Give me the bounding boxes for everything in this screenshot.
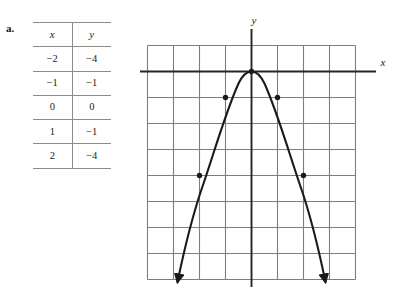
table-cell-y: −4 bbox=[72, 47, 111, 71]
table-cell-y: −4 bbox=[72, 144, 111, 168]
table-cell-x: −1 bbox=[33, 71, 72, 95]
graph-svg: x y bbox=[130, 8, 408, 294]
part-label: a. bbox=[6, 22, 14, 34]
table-row: 1 −1 bbox=[33, 120, 111, 144]
table-cell-y: −1 bbox=[72, 120, 111, 144]
table-row: 0 0 bbox=[33, 95, 111, 119]
table-header-row: x y bbox=[33, 23, 111, 47]
table-row: −2 −4 bbox=[33, 47, 111, 71]
coordinate-graph: x y bbox=[130, 8, 408, 294]
table-cell-x: 1 bbox=[33, 120, 72, 144]
table-header-y: y bbox=[72, 23, 111, 47]
point-marker bbox=[249, 69, 254, 74]
table-row: 2 −4 bbox=[33, 144, 111, 168]
value-table: x y −2 −4 −1 −1 0 0 1 −1 2 −4 bbox=[33, 22, 111, 169]
table-cell-x: −2 bbox=[33, 47, 72, 71]
point-marker bbox=[301, 173, 306, 178]
table-cell-x: 0 bbox=[33, 95, 72, 119]
point-marker bbox=[275, 95, 280, 100]
table-cell-y: 0 bbox=[72, 95, 111, 119]
point-marker bbox=[197, 173, 202, 178]
y-axis-label: y bbox=[251, 14, 257, 26]
table-cell-x: 2 bbox=[33, 144, 72, 168]
table-header-x: x bbox=[33, 23, 72, 47]
table-row: −1 −1 bbox=[33, 71, 111, 95]
table-cell-y: −1 bbox=[72, 71, 111, 95]
x-axis-label: x bbox=[380, 56, 386, 68]
figure-container: a. x y −2 −4 −1 −1 0 0 bbox=[0, 0, 408, 294]
point-marker bbox=[223, 95, 228, 100]
